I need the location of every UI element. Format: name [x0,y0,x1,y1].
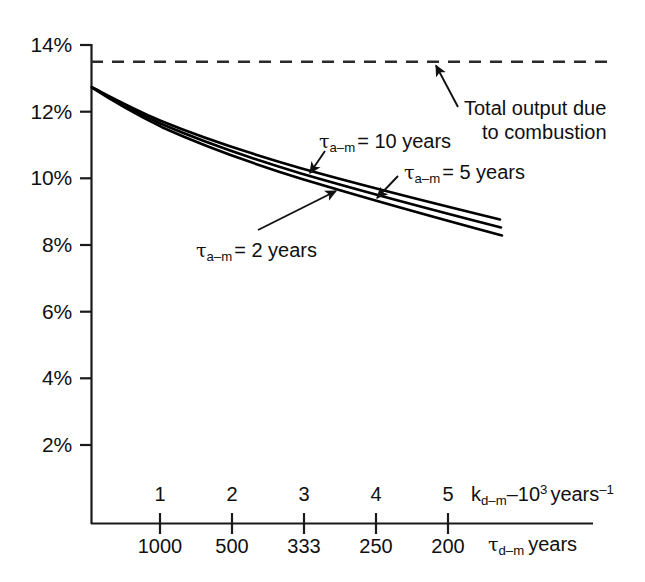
annotation-tau-2-symbol: τ [196,239,207,261]
x-tick-bottom-label-200: 200 [408,536,488,556]
x-caption-k-subscript: d–m [481,493,507,508]
x-caption-tau-unit: years [528,533,577,555]
x-tick-bottom-label-333: 333 [264,536,344,556]
x-tick-top-label-5: 5 [428,484,468,504]
x-caption-k-exponent: 3 [540,482,547,497]
annotation-tau-10-subscript: a–m [330,140,356,155]
y-tick-label-2: 2% [6,434,72,455]
arrow-tau-5 [377,176,398,198]
y-tick-label-14: 14% [6,34,72,55]
x-caption-tau-symbol: τ [488,533,499,555]
reference-arrow [436,66,458,108]
annotation-curve-tau-5: τa–m= 5 years [404,162,525,185]
x-tick-top-label-2: 2 [212,484,252,504]
y-tick-label-4: 4% [6,367,72,388]
annotation-tau-10-text: = 10 years [357,130,451,152]
x-tick-top-label-4: 4 [356,484,396,504]
annotation-reference-line-2: to combustion [464,120,607,144]
annotation-curve-tau-2: τa–m= 2 years [196,240,317,263]
x-caption-k-symbol: k [471,483,481,505]
x-caption-k-unit-exponent: –1 [599,482,614,497]
x-tick-bottom-label-250: 250 [336,536,416,556]
y-tick-label-10: 10% [6,167,72,188]
annotation-tau-2-text: = 2 years [234,239,317,261]
y-tick-label-8: 8% [6,234,72,255]
x-tick-top-label-3: 3 [284,484,324,504]
arrow-tau-2 [258,191,336,230]
x-tick-bottom-label-1000: 1000 [120,536,200,556]
annotation-tau-10-symbol: τ [319,130,330,152]
annotation-tau-5-text: = 5 years [442,161,525,183]
y-tick-label-12: 12% [6,101,72,122]
y-tick-marks [80,45,91,445]
y-tick-label-6: 6% [6,301,72,322]
annotation-tau-5-symbol: τ [404,161,415,183]
annotation-curve-tau-10: τa–m= 10 years [319,131,451,154]
annotation-reference-line-1: Total output due [464,96,607,120]
x-caption-k-unit: years [550,483,599,505]
x-axis-caption-k: kd–m–103years–1 [471,483,614,507]
chart-figure: 14% 12% 10% 8% 6% 4% 2% 1 2 3 4 5 1000 5… [0,0,645,582]
arrow-tau-10 [310,151,325,173]
annotation-reference-line: Total output due to combustion [464,96,607,145]
x-tick-top-label-1: 1 [140,484,180,504]
x-caption-k-mantissa: –10 [507,483,540,505]
annotation-tau-5-subscript: a–m [415,171,441,186]
annotation-tau-2-subscript: a–m [207,249,233,264]
curve-tau-5 [92,87,501,227]
x-tick-bottom-label-500: 500 [192,536,272,556]
x-axis-caption-tau: τd–myears [488,534,577,557]
x-caption-tau-subscript: d–m [499,543,525,558]
